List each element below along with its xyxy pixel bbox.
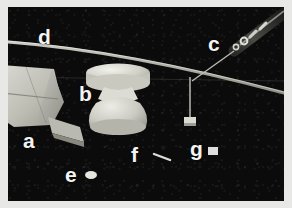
photograph: a b c d e f g [8, 7, 284, 201]
figure-label-e: e [65, 164, 77, 185]
figure-frame: a b c d e f g [0, 0, 292, 208]
spool-shaped-object [86, 64, 150, 136]
figure-label-b: b [79, 83, 92, 104]
wedge-plate-object [8, 65, 84, 147]
figure-label-f: f [131, 144, 138, 165]
figure-label-a: a [23, 130, 35, 151]
short-dash-marker [154, 154, 170, 160]
suspension-line [184, 77, 196, 126]
small-oval-marker [85, 171, 97, 179]
needle-instrument [192, 11, 284, 81]
figure-label-c: c [208, 33, 220, 54]
small-square-marker [208, 147, 218, 155]
figure-label-g: g [190, 138, 203, 159]
figure-label-d: d [38, 26, 51, 47]
